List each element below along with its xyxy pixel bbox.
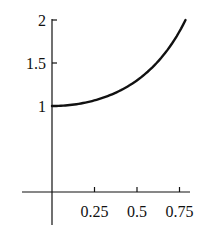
y-tick-label: 2 [38,12,46,29]
y-tick-label: 1 [38,98,46,115]
x-tick-label: 0.5 [127,203,147,220]
plot: 0.250.50.75 11.52 [0,0,209,241]
x-tick-label: 0.75 [166,203,194,220]
y-tick-label: 1.5 [26,55,46,72]
x-tick-label: 0.25 [81,203,109,220]
function-curve [52,20,186,106]
